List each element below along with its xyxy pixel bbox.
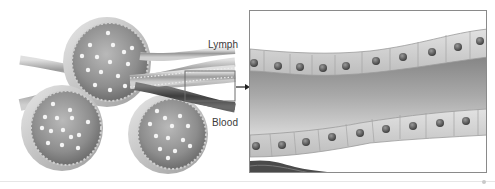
- right-arrow-icon: [236, 84, 250, 90]
- overview-illustration: [0, 0, 250, 189]
- blood-label: Blood: [212, 117, 238, 128]
- alveolus-left: [21, 85, 103, 171]
- bottom-divider: [0, 181, 495, 182]
- page-indicator-dot: [482, 180, 486, 184]
- endothelium-closeup: [250, 11, 487, 173]
- magnified-inset: [249, 10, 487, 173]
- lymph-label: Lymph: [208, 39, 238, 50]
- lymph-blood-diagram: Lymph Blood: [0, 0, 495, 189]
- alveolus-right: [128, 94, 208, 174]
